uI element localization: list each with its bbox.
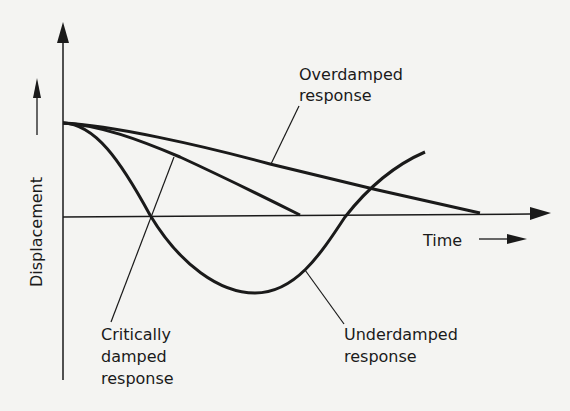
damping-response-diagram: Displacement Time Overdamped response Cr… bbox=[0, 0, 570, 411]
y-axis bbox=[57, 22, 69, 380]
diagram-graphics bbox=[0, 0, 570, 411]
underdamped-leader-line bbox=[305, 270, 344, 324]
x-axis-label: Time bbox=[423, 231, 462, 250]
critically-damped-label-line3: response bbox=[101, 369, 174, 388]
x-label-arrow-icon bbox=[479, 234, 527, 244]
critically-damped-leader-line bbox=[111, 157, 174, 322]
critically-damped-curve bbox=[63, 123, 300, 215]
underdamped-curve bbox=[63, 123, 425, 293]
y-axis-label: Displacement bbox=[27, 177, 46, 287]
critically-damped-label-line1: Critically bbox=[101, 325, 171, 344]
overdamped-label-line2: response bbox=[299, 86, 372, 105]
overdamped-leader-line bbox=[271, 106, 299, 164]
y-label-arrow-icon bbox=[33, 78, 41, 135]
critically-damped-label-line2: damped bbox=[101, 347, 167, 366]
underdamped-label-line2: response bbox=[344, 347, 417, 366]
overdamped-label-line1: Overdamped bbox=[299, 65, 403, 84]
underdamped-label-line1: Underdamped bbox=[344, 325, 458, 344]
